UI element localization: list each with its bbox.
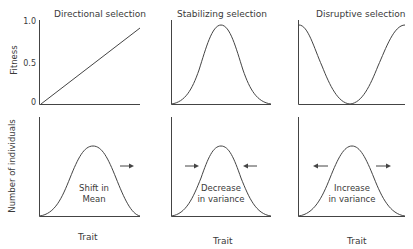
curve-disruptive-population (299, 146, 406, 216)
annotation-stabilizing-line2: in variance (196, 194, 246, 205)
annotation-directional-line2: Mean (72, 194, 116, 205)
diagram-canvas (0, 0, 413, 249)
curve-directional-fitness (41, 28, 140, 104)
axis-stabilizing-fitness (172, 20, 272, 105)
annotation-disruptive-line1: Increase (326, 183, 378, 194)
annotation-directional-line1: Shift in (72, 183, 116, 194)
tick-0: 0 (22, 98, 36, 107)
x-label-stabilizing: Trait (213, 236, 232, 246)
axis-disruptive-fitness (299, 20, 406, 105)
annotation-stabilizing-line1: Decrease (196, 183, 246, 194)
annotation-directional: Shift in Mean (72, 183, 116, 205)
fitness-axis-label: Fitness (9, 40, 19, 80)
population-axis-label: Number of individuals (7, 116, 17, 216)
title-disruptive: Disruptive selection (316, 9, 405, 19)
x-label-directional: Trait (78, 232, 97, 242)
curve-disruptive-fitness (299, 25, 405, 104)
tick-0.5: 0.5 (22, 59, 36, 68)
title-directional: Directional selection (54, 9, 146, 19)
annotation-stabilizing: Decrease in variance (196, 183, 246, 205)
x-label-disruptive: Trait (347, 236, 366, 246)
annotation-disruptive-line2: in variance (326, 194, 378, 205)
arrow-outward-left-icon (313, 164, 328, 169)
axis-directional-fitness (40, 20, 141, 105)
annotation-disruptive: Increase in variance (326, 183, 378, 205)
title-stabilizing: Stabilizing selection (177, 9, 267, 19)
arrow-right-icon (120, 164, 134, 169)
arrow-inward-left-icon (243, 164, 257, 169)
arrow-inward-right-icon (185, 164, 199, 169)
tick-1.0: 1.0 (22, 17, 36, 26)
arrow-outward-right-icon (376, 164, 391, 169)
curve-directional-population (40, 146, 141, 216)
curve-stabilizing-population (172, 146, 272, 216)
curve-stabilizing-fitness (172, 25, 272, 104)
